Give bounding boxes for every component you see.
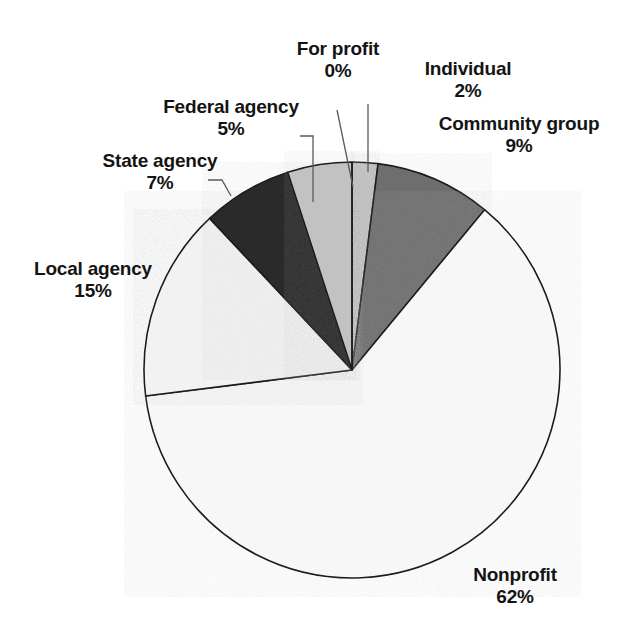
slice-label-for-profit-value: 0% [268,60,408,82]
slice-label-for-profit-name: For profit [268,38,408,60]
slice-label-federal-agency-value: 5% [145,118,317,140]
slice-label-community-group-value: 9% [424,135,614,157]
slice-label-individual: Individual 2% [398,58,538,103]
slice-label-state-agency-value: 7% [80,172,240,194]
slice-label-community-group-name: Community group [424,113,614,135]
slice-label-local-agency-value: 15% [13,280,173,302]
slice-label-individual-value: 2% [398,80,538,102]
slice-label-local-agency: Local agency 15% [13,258,173,303]
slice-label-state-agency: State agency 7% [80,150,240,195]
slice-label-nonprofit-name: Nonprofit [440,564,590,586]
pie-chart-figure: For profit 0% Individual 2% Community gr… [0,0,633,644]
slice-label-for-profit: For profit 0% [268,38,408,83]
slice-label-nonprofit: Nonprofit 62% [440,564,590,609]
slice-label-federal-agency-name: Federal agency [145,96,317,118]
slice-label-individual-name: Individual [398,58,538,80]
slice-label-local-agency-name: Local agency [13,258,173,280]
slice-label-state-agency-name: State agency [80,150,240,172]
pie-slices [144,162,560,578]
slice-label-community-group: Community group 9% [424,113,614,158]
slice-label-nonprofit-value: 62% [440,586,590,608]
slice-label-federal-agency: Federal agency 5% [145,96,317,141]
